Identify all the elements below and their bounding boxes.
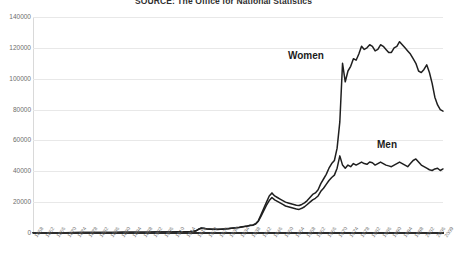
y-axis-tick-label: 0	[1, 229, 31, 236]
series-annotation-women: Women	[288, 50, 324, 61]
y-axis-tick-label: 40000	[1, 167, 31, 174]
plot-area	[33, 17, 443, 233]
chart-title: SOURCE: The Office for National Statisti…	[0, 0, 447, 6]
y-axis-tick-label: 80000	[1, 106, 31, 113]
series-annotation-men: Men	[377, 139, 397, 150]
y-axis-tick-label: 100000	[1, 75, 31, 82]
series-line-men	[33, 156, 443, 233]
series-line-women	[33, 42, 443, 233]
y-axis-tick-label: 120000	[1, 44, 31, 51]
y-axis-tick-labels: 140000120000100000800006000040000200000	[0, 0, 31, 256]
y-axis-tick-label: 140000	[1, 13, 31, 20]
y-axis-tick-label: 20000	[1, 198, 31, 205]
x-axis-tick-labels: 1858186218661870187418781882188618901894…	[33, 234, 445, 256]
y-axis-tick-label: 60000	[1, 136, 31, 143]
series-paths	[33, 17, 443, 233]
